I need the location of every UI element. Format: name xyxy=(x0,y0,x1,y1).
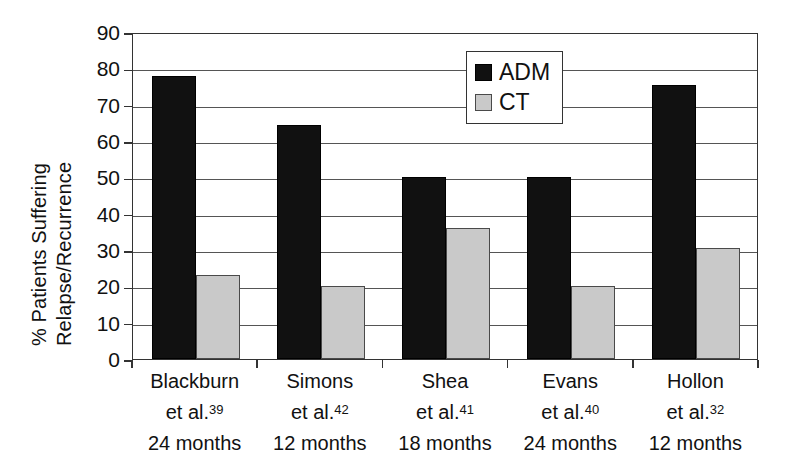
x-category-author: Shea xyxy=(382,366,507,397)
x-category-citation-ref: 42 xyxy=(334,402,348,417)
legend-label-adm: ADM xyxy=(499,61,550,84)
legend-item-adm: ADM xyxy=(475,57,550,87)
y-axis-tick-mark xyxy=(124,70,133,72)
legend-label-ct: CT xyxy=(499,91,530,114)
y-axis-tick-label: 60 xyxy=(80,131,120,152)
bar-chart-figure: % Patients Suffering Relapse/Recurrence … xyxy=(0,0,790,472)
x-axis-category-label: Sheaet al.4118 months xyxy=(382,366,507,470)
y-axis-tick-labels: 9080706050403020100 xyxy=(78,0,120,472)
x-axis-category-label: Evanset al.4024 months xyxy=(508,366,633,470)
y-axis-tick-mark xyxy=(124,33,133,35)
legend-item-ct: CT xyxy=(475,87,550,117)
x-category-author: Evans xyxy=(508,366,633,397)
y-axis-tick-mark xyxy=(124,324,133,326)
y-axis-tick-mark xyxy=(124,179,133,181)
x-axis-category-label: Blackburnet al.3924 months xyxy=(132,366,257,470)
x-category-duration: 12 months xyxy=(257,428,382,459)
x-category-citation-ref: 41 xyxy=(459,402,473,417)
y-axis-title-line-2: Relapse/Recurrence xyxy=(53,162,76,346)
bar-adm xyxy=(277,125,321,359)
x-category-duration: 24 months xyxy=(132,428,257,459)
bar-adm xyxy=(152,76,196,359)
bar-group xyxy=(133,34,258,359)
x-axis-category-label: Simonset al.4212 months xyxy=(257,366,382,470)
x-category-duration: 12 months xyxy=(633,428,758,459)
x-axis-tick-mark xyxy=(507,360,509,368)
x-category-author: Blackburn xyxy=(132,366,257,397)
x-category-duration: 24 months xyxy=(508,428,633,459)
x-axis-tick-mark xyxy=(757,360,759,368)
x-category-citation: et al.39 xyxy=(132,397,257,428)
y-axis-tick-label: 40 xyxy=(80,204,120,225)
y-axis-tick-mark xyxy=(124,106,133,108)
bar-adm xyxy=(652,85,696,359)
bar-group xyxy=(634,34,759,359)
y-axis-tick-label: 70 xyxy=(80,95,120,116)
plot-area xyxy=(132,33,758,360)
bar-ct xyxy=(696,248,740,359)
x-axis-tick-mark xyxy=(382,360,384,368)
bar-ct xyxy=(446,228,490,359)
x-axis-tick-mark xyxy=(131,360,133,368)
bar-ct xyxy=(321,286,365,359)
y-axis-tick-label: 50 xyxy=(80,167,120,188)
bar-group xyxy=(258,34,383,359)
x-category-citation-ref: 32 xyxy=(710,402,724,417)
y-axis-tick-mark xyxy=(124,142,133,144)
y-axis-tick-label: 10 xyxy=(80,313,120,334)
x-axis-tick-mark xyxy=(256,360,258,368)
y-axis-tick-label: 0 xyxy=(80,349,120,370)
x-category-duration: 18 months xyxy=(382,428,507,459)
x-axis-category-labels: Blackburnet al.3924 monthsSimonset al.42… xyxy=(132,366,758,470)
x-axis-category-label: Hollonet al.3212 months xyxy=(633,366,758,470)
bar-ct xyxy=(196,275,240,359)
y-axis-tick-label: 30 xyxy=(80,240,120,261)
y-axis-tick-label: 20 xyxy=(80,276,120,297)
x-category-citation: et al.40 xyxy=(508,397,633,428)
x-category-citation: et al.41 xyxy=(382,397,507,428)
bar-adm xyxy=(527,177,571,359)
y-axis-tick-mark xyxy=(124,288,133,290)
bar-adm xyxy=(402,177,446,359)
chart-legend: ADM CT xyxy=(466,51,563,124)
y-axis-tick-mark xyxy=(124,215,133,217)
x-category-citation-ref: 40 xyxy=(585,402,599,417)
x-axis-tick-mark xyxy=(632,360,634,368)
x-category-citation: et al.42 xyxy=(257,397,382,428)
y-axis-tick-label: 80 xyxy=(80,58,120,79)
legend-swatch-ct-icon xyxy=(475,94,492,111)
y-axis-tick-label: 90 xyxy=(80,22,120,43)
y-axis-title-line-1: % Patients Suffering xyxy=(28,163,51,346)
x-category-citation-ref: 39 xyxy=(209,402,223,417)
y-axis-title: % Patients Suffering Relapse/Recurrence xyxy=(0,0,64,372)
x-category-author: Simons xyxy=(257,366,382,397)
x-category-citation: et al.32 xyxy=(633,397,758,428)
legend-swatch-adm-icon xyxy=(475,64,492,81)
bar-ct xyxy=(571,286,615,359)
x-category-author: Hollon xyxy=(633,366,758,397)
y-axis-tick-mark xyxy=(124,251,133,253)
